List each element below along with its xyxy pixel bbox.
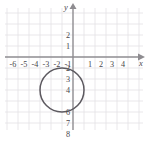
y-tick-labels: 2 1 2 3 4 6 7 8	[66, 31, 70, 139]
x-tick-label: 1	[88, 60, 92, 69]
y-tick-label: 3	[66, 75, 70, 84]
graph-figure: -6 -5 -4 -3 -2 -1 1 2 3 4 2 1 2 3 4 6 7 …	[0, 0, 148, 141]
y-tick-label: 4	[66, 86, 70, 95]
x-tick-label: -4	[32, 60, 39, 69]
x-tick-label: -5	[21, 60, 28, 69]
y-tick-label: 1	[66, 42, 70, 51]
x-tick-label: -2	[54, 60, 61, 69]
coordinate-plane-svg: -6 -5 -4 -3 -2 -1 1 2 3 4 2 1 2 3 4 6 7 …	[0, 0, 148, 141]
x-tick-label: -6	[10, 60, 17, 69]
y-axis-label: y	[63, 2, 68, 12]
x-axis-label: x	[138, 58, 143, 68]
x-tick-label: 2	[99, 60, 103, 69]
x-tick-label: -3	[43, 60, 50, 69]
y-tick-label: 8	[66, 130, 70, 139]
y-tick-label: 2	[66, 31, 70, 40]
grid-lines	[5, 8, 143, 130]
y-tick-label: 7	[66, 119, 70, 128]
x-tick-label: 4	[121, 60, 125, 69]
y-tick-label: 2	[66, 64, 70, 73]
x-tick-label: 3	[110, 60, 114, 69]
y-tick-label: 6	[66, 108, 70, 117]
